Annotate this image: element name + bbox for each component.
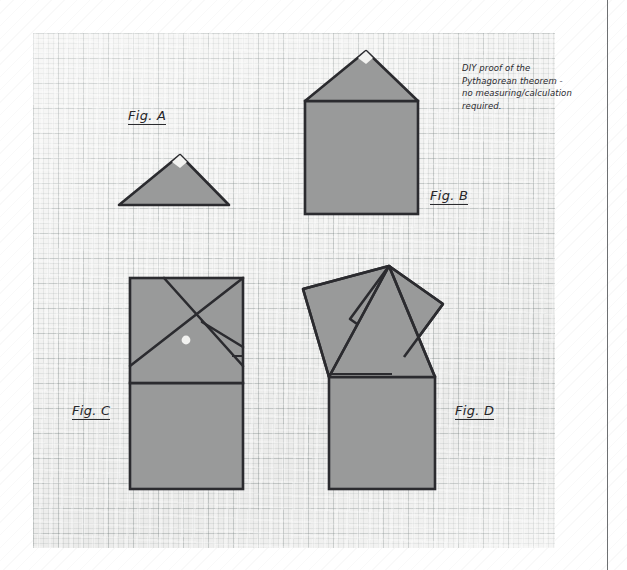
note-line-1: DIY proof of the <box>462 62 580 75</box>
handwritten-note: DIY proof of the Pythagorean theorem - n… <box>462 62 580 112</box>
figure-label-b: Fig. B <box>430 188 468 205</box>
right-margin-rule <box>607 0 608 570</box>
figure-label-c-text: Fig. C <box>72 403 110 418</box>
figure-label-b-text: Fig. B <box>430 188 468 203</box>
figure-label-c-underline <box>72 419 110 420</box>
figure-label-d-underline <box>455 419 494 420</box>
note-line-4: required. <box>462 100 580 113</box>
figure-label-a: Fig. A <box>128 108 166 125</box>
figure-label-c: Fig. C <box>72 403 110 420</box>
figure-label-a-underline <box>128 124 166 125</box>
figure-label-d: Fig. D <box>455 403 494 420</box>
figure-label-d-text: Fig. D <box>455 403 494 418</box>
figure-label-b-underline <box>430 204 468 205</box>
sketch-canvas: DIY proof of the Pythagorean theorem - n… <box>0 0 627 570</box>
note-line-3: no measuring/calculation <box>462 87 580 100</box>
note-line-2: Pythagorean theorem - <box>462 75 580 88</box>
figure-label-a-text: Fig. A <box>128 108 166 123</box>
